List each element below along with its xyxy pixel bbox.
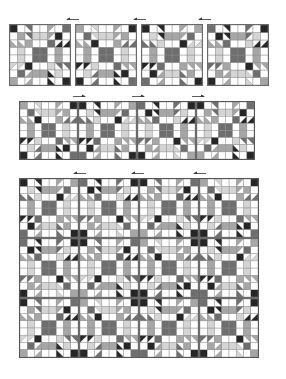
quilt-block (199, 178, 259, 238)
quilt-block (19, 101, 78, 160)
pressing-arrow-left-icon (193, 171, 207, 175)
quilt-block (19, 298, 79, 358)
quilt-block (196, 101, 255, 160)
quilt-block (19, 178, 79, 238)
quilt-block (139, 298, 199, 358)
pressing-arrow-left-icon (133, 17, 147, 21)
pressing-arrow-right-icon (72, 94, 86, 98)
quilt-block (199, 238, 259, 298)
pressing-arrow-left-icon (131, 171, 145, 175)
pressing-arrow-left-icon (66, 17, 80, 21)
quilt-block (19, 238, 79, 298)
quilt-block (79, 238, 139, 298)
quilt-block (141, 24, 203, 86)
quilt-block (207, 24, 269, 86)
quilt-block (79, 178, 139, 238)
quilt-block (139, 238, 199, 298)
quilt-block (9, 24, 71, 86)
pressing-arrow-right-icon (191, 94, 205, 98)
quilt-block (75, 24, 137, 86)
quilt-block (199, 298, 259, 358)
pressing-arrow-left-icon (73, 171, 87, 175)
quilt-block (78, 101, 137, 160)
quilt-block (137, 101, 196, 160)
pressing-arrow-right-icon (131, 94, 145, 98)
pressing-arrow-left-icon (198, 17, 212, 21)
quilt-block (139, 178, 199, 238)
quilt-block (79, 298, 139, 358)
